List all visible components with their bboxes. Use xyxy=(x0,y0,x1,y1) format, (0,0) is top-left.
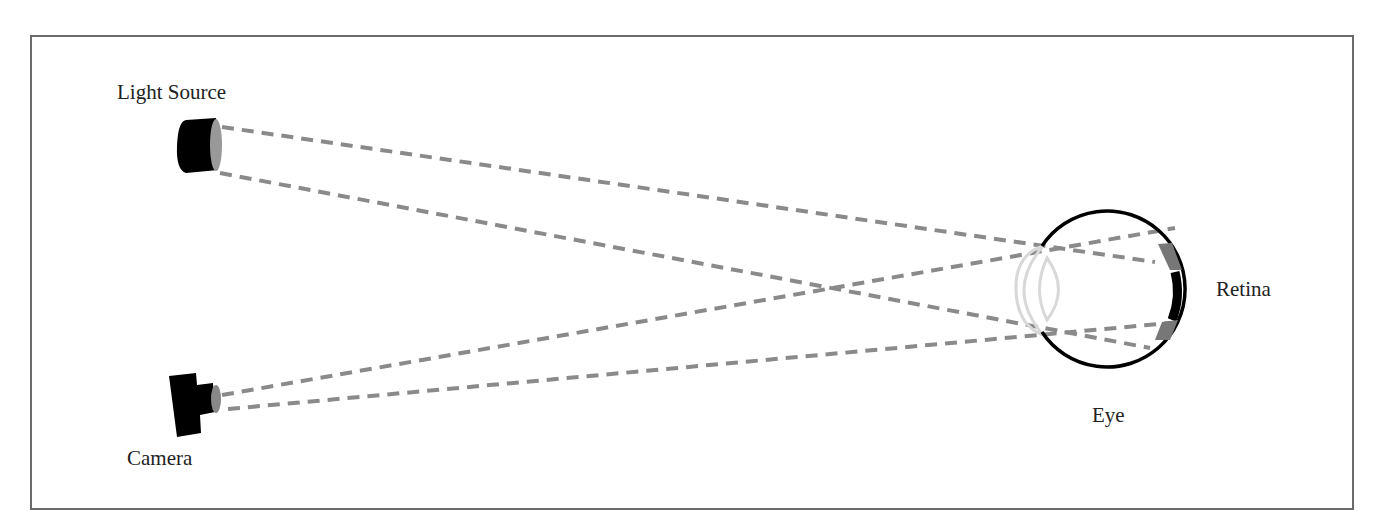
camera-icon xyxy=(169,373,221,437)
eye-label: Eye xyxy=(1092,405,1125,426)
retina-label: Retina xyxy=(1216,279,1271,300)
eye-icon xyxy=(1016,211,1185,367)
light-source-label: Light Source xyxy=(117,82,226,103)
light-beam-bottom xyxy=(220,173,1150,348)
light-source-icon xyxy=(177,118,222,173)
light-beams xyxy=(220,127,1175,409)
camera-beam-bottom xyxy=(228,323,1170,409)
camera-label: Camera xyxy=(127,448,192,469)
light-beam-top xyxy=(222,127,1155,262)
